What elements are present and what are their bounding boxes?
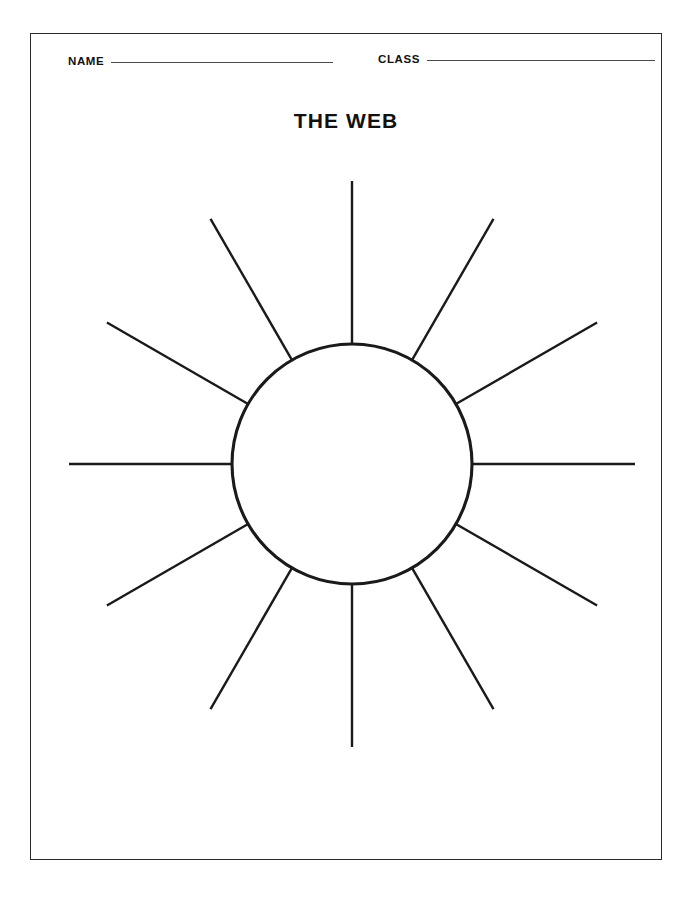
web-spoke-6[interactable] — [412, 568, 494, 709]
class-field-rule[interactable] — [427, 60, 655, 61]
web-spoke-5[interactable] — [456, 524, 597, 606]
web-diagram-canvas — [30, 150, 662, 790]
class-field-label: CLASS — [378, 53, 420, 65]
web-spoke-12[interactable] — [211, 219, 293, 360]
name-field[interactable]: NAME — [68, 55, 333, 75]
web-spoke-8[interactable] — [211, 568, 293, 709]
name-field-rule[interactable] — [111, 62, 333, 63]
page-title: THE WEB — [30, 109, 662, 133]
web-spoke-3[interactable] — [456, 323, 597, 405]
worksheet-page: NAME CLASS THE WEB — [0, 0, 691, 898]
web-spoke-11[interactable] — [107, 323, 248, 405]
web-spoke-2[interactable] — [412, 219, 494, 360]
web-center-circle[interactable] — [232, 344, 472, 584]
web-diagram — [30, 150, 662, 790]
header-row: NAME CLASS — [30, 49, 662, 83]
class-field[interactable]: CLASS — [378, 53, 655, 73]
name-field-label: NAME — [68, 55, 104, 67]
web-spoke-9[interactable] — [107, 524, 248, 606]
